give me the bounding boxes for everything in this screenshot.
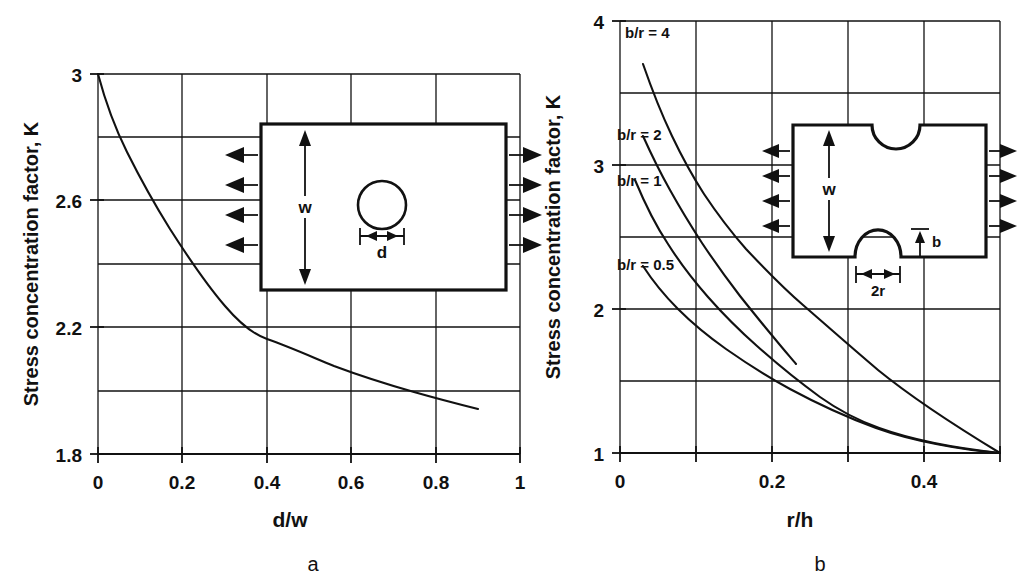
inset-a-diameter-label: d	[377, 243, 387, 262]
xtick-label-1: 1	[515, 472, 526, 493]
panel-b-curve-label-br-4: b/r = 4	[625, 24, 670, 41]
xtick-label-b-0: 0	[615, 471, 626, 492]
panel-b-y-axis-title: Stress concentration factor, K	[542, 94, 564, 379]
figure-root: 3 2.6 2.2 1.8 0 0.2 0.4 0.6 0.8 1 Stress…	[0, 0, 1026, 585]
ytick-label-1.8: 1.8	[56, 445, 82, 466]
panel-b-curve-label-br-0.5: b/r = 0.5	[617, 256, 674, 273]
inset-a-hole	[358, 181, 406, 229]
ytick-label-3: 3	[593, 156, 604, 177]
xtick-label-0.6: 0.6	[338, 472, 364, 493]
inset-b-width-label: w	[821, 180, 836, 199]
ytick-label-1: 1	[593, 444, 604, 465]
xtick-label-b-0.4: 0.4	[911, 471, 938, 492]
ytick-label-4: 4	[593, 12, 604, 33]
ytick-label-3: 3	[71, 65, 82, 86]
xtick-label-0.4: 0.4	[254, 472, 281, 493]
xtick-label-b-0.2: 0.2	[759, 471, 785, 492]
panel-a-y-axis-title: Stress concentration factor, K	[20, 121, 42, 406]
xtick-label-0.2: 0.2	[169, 472, 195, 493]
panel-b-x-axis-title: r/h	[787, 508, 814, 531]
ytick-label-2: 2	[593, 300, 604, 321]
xtick-label-0.8: 0.8	[423, 472, 449, 493]
inset-b-notch-width-label: 2r	[871, 282, 885, 299]
panel-b-curve-label-br-1: b/r = 1	[617, 172, 662, 189]
panel-a-x-axis-title: d/w	[273, 508, 309, 531]
inset-a-width-label: w	[297, 198, 312, 217]
panel-b-caption: b	[814, 553, 825, 575]
panel-a-caption: a	[307, 553, 319, 575]
panel-a-inset: w d	[225, 124, 542, 290]
xtick-label-0: 0	[93, 472, 104, 493]
inset-b-depth-label: b	[932, 233, 941, 250]
ytick-label-2.6: 2.6	[56, 191, 82, 212]
ytick-label-2.2: 2.2	[56, 318, 82, 339]
panel-b-curve-label-br-2: b/r = 2	[617, 126, 662, 143]
